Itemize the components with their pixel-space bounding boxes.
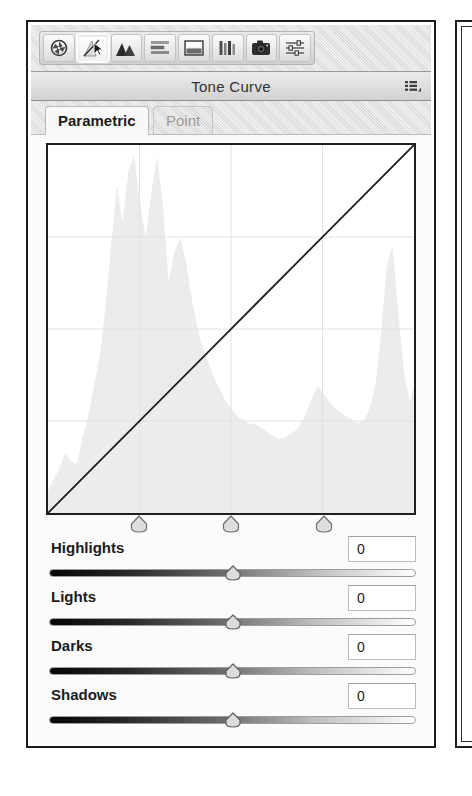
slider-row-shadows: Shadows 0 — [31, 684, 431, 733]
module-toolbar — [39, 31, 315, 65]
lens-correction-icon[interactable] — [212, 34, 244, 62]
hsl-module-icon[interactable] — [111, 34, 143, 62]
curve-mode-tabs: Parametric Point — [31, 101, 431, 135]
lights-value[interactable]: 0 — [348, 585, 416, 611]
slider-row-darks: Darks 0 — [31, 635, 431, 684]
slider-row-highlights: Highlights 0 — [31, 537, 431, 586]
tone-curve-graph-wrap — [46, 143, 416, 515]
shadows-label: Shadows — [51, 686, 117, 703]
adjacent-page-frame-inner — [461, 26, 472, 742]
detail-module-icon[interactable] — [178, 34, 210, 62]
darks-label: Darks — [51, 637, 93, 654]
tone-curve-module-icon[interactable] — [77, 34, 109, 62]
shadows-value[interactable]: 0 — [348, 683, 416, 709]
highlights-slider[interactable] — [49, 567, 416, 579]
page-title: Tone Curve — [31, 78, 431, 95]
highlights-label: Highlights — [51, 539, 124, 556]
highlights-value[interactable]: 0 — [348, 536, 416, 562]
tone-sliders: Highlights 0 Lights 0 — [31, 537, 431, 733]
midtone-split-marker[interactable] — [220, 515, 242, 533]
shadow-split-marker[interactable] — [128, 515, 150, 533]
tone-curve-panel: Tone Curve Parametric Point — [31, 25, 431, 743]
basic-module-icon[interactable] — [43, 34, 75, 62]
lights-label: Lights — [51, 588, 96, 605]
highlight-split-marker[interactable] — [313, 515, 335, 533]
panel-title-bar: Tone Curve — [31, 71, 431, 101]
darks-slider[interactable] — [49, 665, 416, 677]
adjacent-page-frame — [455, 20, 472, 748]
split-toning-icon[interactable] — [144, 34, 176, 62]
tone-curve-graph[interactable] — [46, 143, 416, 515]
panel-body: Highlights 0 Lights 0 — [31, 135, 431, 743]
lights-slider[interactable] — [49, 616, 416, 628]
tab-point[interactable]: Point — [153, 106, 213, 135]
tab-parametric[interactable]: Parametric — [45, 106, 149, 135]
darks-value[interactable]: 0 — [348, 634, 416, 660]
list-menu-icon[interactable] — [405, 80, 421, 92]
slider-row-lights: Lights 0 — [31, 586, 431, 635]
shadows-thumb[interactable] — [223, 712, 243, 728]
tone-curve-plot — [48, 145, 414, 513]
highlights-thumb[interactable] — [223, 565, 243, 581]
tab-point-label: Point — [166, 112, 200, 129]
darks-thumb[interactable] — [223, 663, 243, 679]
effects-module-icon[interactable] — [279, 34, 311, 62]
split-point-markers — [46, 515, 416, 535]
camera-calibration-icon[interactable] — [246, 34, 278, 62]
tone-curve-screenshot: Tone Curve Parametric Point — [0, 0, 472, 796]
tab-parametric-label: Parametric — [58, 112, 136, 129]
lights-thumb[interactable] — [223, 614, 243, 630]
shadows-slider[interactable] — [49, 714, 416, 726]
